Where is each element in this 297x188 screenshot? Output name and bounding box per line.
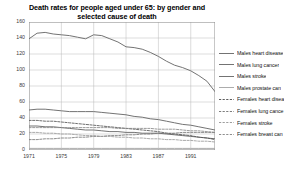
legend-item-label: Females breast can [237, 131, 283, 137]
x-axis-tick-label: 1971 [23, 153, 35, 159]
y-axis-tick-labels: 020406080100120140160 [0, 22, 27, 150]
y-axis-tick-label: 20 [19, 131, 25, 136]
y-axis-tick-label: 160 [16, 19, 25, 24]
legend-line-swatch-icon [219, 132, 234, 137]
x-axis-tick-label: 1987 [153, 153, 165, 159]
y-axis-tick-label: 120 [16, 51, 25, 56]
legend-item[interactable]: Females heart disea [219, 94, 297, 104]
legend-item-label: Females heart disea [237, 96, 284, 102]
legend-line-swatch-icon [219, 120, 234, 125]
x-axis-tick-label: 1983 [120, 153, 132, 159]
x-axis-tick-label: 1975 [56, 153, 68, 159]
legend-item[interactable]: Males heart disease [219, 48, 297, 58]
legend-item-label: Females lung cance [237, 108, 284, 114]
legend-line-swatch-icon [219, 109, 234, 114]
y-axis-tick-label: 40 [19, 115, 25, 120]
chart-figure: Death rates for people aged under 65: by… [0, 0, 297, 188]
y-axis-tick-label: 140 [16, 35, 25, 40]
plot-area [29, 22, 215, 150]
legend-line-swatch-icon [219, 62, 234, 67]
legend-item-label: Females stroke [237, 120, 273, 126]
legend-line-swatch-icon [219, 85, 234, 90]
legend-item[interactable]: Males prostate can [219, 83, 297, 93]
legend-item[interactable]: Females breast can [219, 129, 297, 139]
legend-item-label: Males lung cancer [237, 62, 279, 68]
chart-legend: Males heart diseaseMales lung cancerMale… [219, 48, 297, 144]
series-line [29, 32, 215, 91]
legend-line-swatch-icon [219, 51, 234, 56]
legend-item-label: Males heart disease [237, 50, 283, 56]
legend-line-swatch-icon [219, 97, 234, 102]
legend-item-label: Males prostate can [237, 85, 281, 91]
plot-svg [29, 22, 215, 150]
chart-title-line-1: Death rates for people aged under 65: by… [22, 3, 212, 12]
series-line [29, 120, 215, 139]
legend-item[interactable]: Females stroke [219, 118, 297, 128]
y-axis-tick-label: 80 [19, 83, 25, 88]
x-axis-tick-labels: 197119751979198319871991 [29, 153, 215, 165]
chart-title: Death rates for people aged under 65: by… [22, 3, 212, 21]
chart-title-line-2: selected cause of death [22, 12, 212, 21]
y-axis-tick-label: 0 [22, 147, 25, 152]
x-axis-tick-label: 1979 [88, 153, 100, 159]
legend-item[interactable]: Females lung cance [219, 106, 297, 116]
legend-item[interactable]: Males stroke [219, 71, 297, 81]
y-axis-tick-label: 60 [19, 99, 25, 104]
x-axis-tick-label: 1991 [185, 153, 197, 159]
y-axis-tick-label: 100 [16, 67, 25, 72]
legend-line-swatch-icon [219, 74, 234, 79]
legend-item-label: Males stroke [237, 73, 266, 79]
legend-item[interactable]: Males lung cancer [219, 60, 297, 70]
